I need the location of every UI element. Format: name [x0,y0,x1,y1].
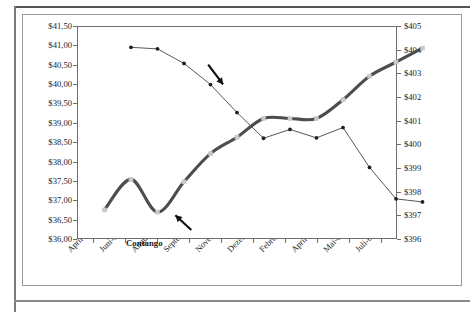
data-point-marker [156,47,160,51]
y-tick-mark-right [397,26,401,27]
y-tick-label-left: $40,00 [28,79,72,89]
x-tick-mark [381,239,382,243]
y-tick-mark-right [397,50,401,51]
y-tick-mark-right [397,97,401,98]
data-point-marker [129,177,134,182]
data-point-marker [182,62,186,66]
plot-area [77,26,397,239]
data-point-marker [235,135,240,140]
y-tick-label-left: $39,00 [28,118,72,128]
y-tick-label-left: $37,00 [28,195,72,205]
y-tick-label-left: $39,50 [28,98,72,108]
series-line [105,48,423,212]
page-rule-top [14,6,470,8]
y-tick-label-right: $401 [404,116,421,126]
data-point-marker [129,45,133,49]
x-tick-mark [285,239,286,243]
x-tick-mark [221,239,222,243]
data-point-marker [341,97,346,102]
data-point-marker [155,210,160,215]
y-tick-label-right: $398 [404,187,421,197]
data-point-marker [368,166,372,170]
data-point-marker [288,116,293,121]
data-point-marker [315,136,319,140]
y-tick-mark-right [397,239,401,240]
data-point-marker [367,74,372,79]
page-rule-bottom [14,300,470,302]
y-tick-label-left: $38,00 [28,157,72,167]
y-tick-label-left: $36,00 [28,234,72,244]
data-point-marker [421,200,425,204]
x-tick-mark [349,239,350,243]
x-tick-mark [189,239,190,243]
y-tick-label-left: $41,00 [28,40,72,50]
y-tick-label-right: $399 [404,163,421,173]
data-point-marker [262,136,266,140]
data-point-marker [102,208,107,213]
x-tick-mark [93,239,94,243]
chart-annotation: Contango [126,238,163,248]
y-tick-mark-right [397,121,401,122]
y-tick-label-left: $40,50 [28,60,72,70]
y-tick-mark-right [397,144,401,145]
data-point-marker [288,128,292,132]
y-tick-mark-right [397,192,401,193]
figure-container: Ölpreis ($/Barrel) Goldpreis ($/Troy Unz… [0,0,476,318]
data-point-marker [420,46,425,51]
y-tick-label-right: $397 [404,210,421,220]
series-canvas [78,27,396,238]
series-gold [102,46,425,215]
x-tick-mark [317,239,318,243]
x-tick-mark [253,239,254,243]
data-point-marker [314,116,319,121]
data-point-marker [208,151,213,156]
y-tick-mark-right [397,168,401,169]
data-point-marker [261,116,266,121]
y-tick-label-right: $403 [404,68,421,78]
page-rule-left [14,6,16,312]
data-point-marker [341,126,345,130]
data-point-marker [235,111,239,115]
y-tick-label-right: $396 [404,234,421,244]
data-point-marker [209,83,213,87]
y-tick-label-right: $402 [404,92,421,102]
y-tick-label-right: $405 [404,21,421,31]
data-point-marker [182,179,187,184]
y-tick-label-left: $38,50 [28,137,72,147]
data-point-marker [394,60,399,65]
y-tick-label-left: $37,50 [28,176,72,186]
data-point-marker [394,197,398,201]
y-tick-label-left: $41,50 [28,21,72,31]
y-tick-label-left: $36,50 [28,215,72,225]
y-tick-label-right: $400 [404,139,421,149]
y-tick-mark-right [397,215,401,216]
rohoel-arrow [208,65,223,85]
gold-arrow [175,215,191,230]
y-tick-mark-right [397,73,401,74]
